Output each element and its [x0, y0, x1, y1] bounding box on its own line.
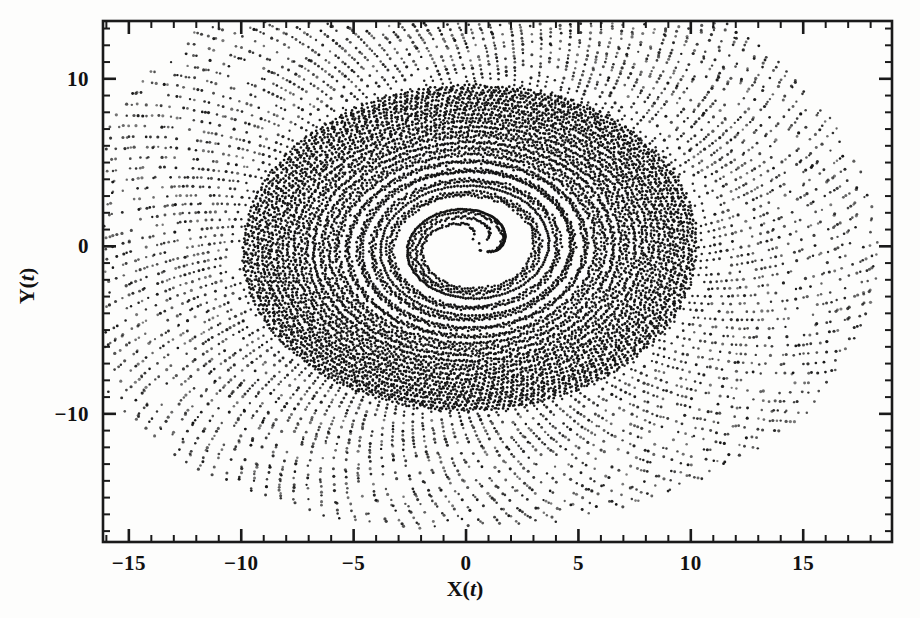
y-axis-title: Y(t)	[14, 268, 39, 305]
y-tick-label: 0	[78, 234, 89, 258]
x-tick-label: −15	[112, 551, 146, 575]
x-axis-title: X(t)	[447, 576, 484, 601]
figure-container: −15−10−5051015100−10 X(t) Y(t)	[0, 0, 920, 618]
x-tick-label: 0	[461, 551, 472, 575]
x-tick-label: −10	[224, 551, 258, 575]
x-tick-label: 5	[573, 551, 584, 575]
y-tick-label: −10	[55, 402, 89, 426]
y-tick-label: 10	[67, 67, 89, 91]
phase-portrait-plot: −15−10−5051015100−10 X(t) Y(t)	[0, 0, 920, 618]
x-tick-label: −5	[342, 551, 365, 575]
x-tick-label: 10	[680, 551, 702, 575]
x-tick-label: 15	[792, 551, 814, 575]
